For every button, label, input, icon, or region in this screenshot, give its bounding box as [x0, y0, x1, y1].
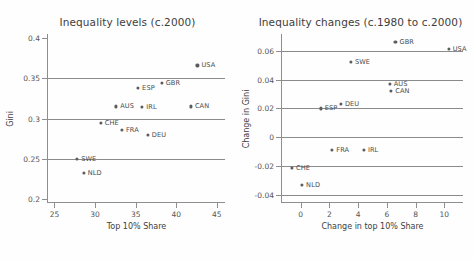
y-tick: [276, 195, 282, 196]
plot-area-left: Gini Top 10% Share 0.20.250.30.350.42530…: [47, 34, 225, 203]
y-tick: [276, 51, 282, 52]
plot-area-right: Change in Gini Change in top 10% Share -…: [281, 34, 463, 203]
data-point-label: IRL: [146, 103, 157, 111]
panel-inequality-changes: Inequality changes (c.1980 to c.2000) Ch…: [237, 0, 474, 260]
y-tick-label: -0.02: [255, 162, 274, 171]
y-tick-label: 0.25: [23, 154, 40, 163]
data-point-label: GBR: [399, 38, 414, 46]
x-tick-label: 4: [356, 210, 361, 219]
y-tick: [276, 108, 282, 109]
x-tick: [136, 203, 137, 208]
gridline-y: [282, 51, 463, 52]
data-point-label: CHE: [296, 164, 310, 172]
chart-title-right: Inequality changes (c.1980 to c.2000): [237, 16, 474, 28]
panel-inequality-levels: Inequality levels (c.2000) Gini Top 10% …: [0, 0, 237, 260]
y-tick: [42, 199, 48, 200]
data-point: [82, 172, 85, 175]
x-tick-label: 10: [440, 210, 450, 219]
y-axis-title-left: Gini: [6, 111, 15, 127]
data-point-label: NLD: [88, 169, 102, 177]
x-tick: [416, 203, 417, 208]
data-point-label: DEU: [345, 100, 359, 108]
data-point-label: USA: [201, 61, 215, 69]
data-point-label: FRA: [336, 146, 349, 154]
x-tick-label: 0: [298, 210, 303, 219]
y-tick-label: 0.2: [28, 194, 40, 203]
x-tick-label: 6: [384, 210, 389, 219]
y-tick: [276, 166, 282, 167]
y-tick: [42, 38, 48, 39]
data-point: [141, 106, 144, 109]
data-point-label: AUS: [120, 102, 134, 110]
data-point: [76, 157, 79, 160]
data-point-label: FRA: [126, 126, 139, 134]
y-tick-label: 0.04: [257, 75, 274, 84]
data-point: [339, 102, 342, 105]
data-point-label: CAN: [395, 87, 409, 95]
x-tick: [301, 203, 302, 208]
y-tick-label: 0.4: [28, 34, 40, 43]
data-point-label: CHE: [105, 119, 119, 127]
y-tick-label: 0.35: [23, 74, 40, 83]
data-point: [362, 149, 365, 152]
x-tick: [387, 203, 388, 208]
data-point-label: USA: [453, 45, 467, 53]
data-point-label: DEU: [152, 131, 166, 139]
x-tick-label: 35: [131, 210, 141, 219]
y-tick-label: 0: [269, 133, 274, 142]
x-tick: [176, 203, 177, 208]
data-point: [319, 107, 322, 110]
data-point-label: IRL: [368, 146, 379, 154]
x-tick: [444, 203, 445, 208]
gridline-y: [282, 137, 463, 138]
data-point-label: ESP: [142, 84, 155, 92]
gridline-y: [282, 108, 463, 109]
y-tick-label: -0.04: [255, 191, 274, 200]
data-point: [349, 61, 352, 64]
x-tick-label: 40: [172, 210, 182, 219]
x-tick: [54, 203, 55, 208]
x-axis-title-left: Top 10% Share: [48, 222, 225, 231]
x-tick-label: 25: [50, 210, 60, 219]
data-point: [189, 105, 192, 108]
y-tick: [276, 80, 282, 81]
y-tick: [276, 137, 282, 138]
x-tick: [358, 203, 359, 208]
x-tick-label: 8: [413, 210, 418, 219]
data-point: [137, 86, 140, 89]
data-point-label: ESP: [325, 104, 338, 112]
data-point: [99, 121, 102, 124]
chart-title-left: Inequality levels (c.2000): [0, 16, 237, 28]
data-point-label: NLD: [306, 181, 320, 189]
y-tick: [42, 159, 48, 160]
data-point: [146, 133, 149, 136]
gridline-y: [282, 80, 463, 81]
data-point: [331, 149, 334, 152]
x-axis-title-right: Change in top 10% Share: [282, 222, 463, 231]
data-point: [301, 183, 304, 186]
y-tick: [42, 119, 48, 120]
gridline-y: [48, 159, 225, 160]
x-tick: [95, 203, 96, 208]
data-point-label: SWE: [355, 58, 370, 66]
y-tick-label: 0.06: [257, 46, 274, 55]
data-point: [120, 128, 123, 131]
data-point: [160, 81, 163, 84]
data-point-label: SWE: [81, 155, 96, 163]
data-point-label: CAN: [195, 102, 209, 110]
data-point: [196, 64, 199, 67]
x-tick: [329, 203, 330, 208]
y-axis-title-right: Change in Gini: [242, 89, 251, 148]
x-tick-label: 2: [327, 210, 332, 219]
data-point: [390, 89, 393, 92]
y-tick-label: 0.02: [257, 104, 274, 113]
x-tick-label: 30: [90, 210, 100, 219]
figure-two-panel-scatter: Inequality levels (c.2000) Gini Top 10% …: [0, 0, 474, 260]
gridline-y: [282, 195, 463, 196]
data-point: [388, 82, 391, 85]
x-tick: [217, 203, 218, 208]
data-point: [115, 105, 118, 108]
x-axis-line-right: [282, 202, 463, 203]
y-tick-label: 0.3: [28, 114, 40, 123]
data-point-label: GBR: [166, 79, 181, 87]
